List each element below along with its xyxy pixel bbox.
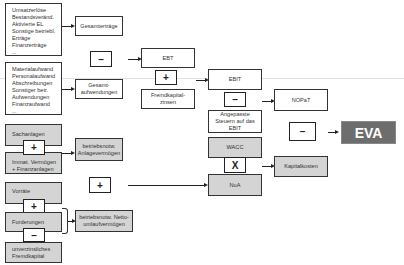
minus-symbol: – <box>300 126 306 137</box>
immat-vermoegen-label: Immat. Vermögen + Finanzanlagen <box>12 159 56 173</box>
unverzinsliches-fk-box: unverzinsliches Fremdkapital <box>5 242 62 263</box>
nopat-box: NOPaT <box>274 89 328 111</box>
arrow-icon <box>335 130 339 134</box>
times-operator: X <box>224 157 246 173</box>
immat-vermoegen-box: Immat. Vermögen + Finanzanlagen <box>5 152 62 174</box>
expense-items-box: Materialaufwand Personalaufwand Abschrei… <box>5 62 62 115</box>
nopat-label: NOPaT <box>292 97 311 104</box>
forderungen-label: Forderungen <box>12 219 44 226</box>
wacc-label: WACC <box>227 144 244 151</box>
plus-operator: + <box>155 70 177 85</box>
arrow-icon <box>204 183 208 187</box>
sachanlagen-label: Sachanlagen <box>12 131 45 138</box>
plus-operator-umlauf: + <box>23 199 45 213</box>
vorraete-label: Vorräte <box>12 188 30 195</box>
angepasste-steuern-label: Angepasste Steuern auf das EBIT <box>215 111 255 132</box>
gesamtaufwendungen-box: Gesamt- aufwendungen <box>75 79 123 99</box>
expense-items-text: Materialaufwand Personalaufwand Abschrei… <box>12 66 55 115</box>
connector <box>128 185 204 186</box>
minus-symbol: – <box>98 54 104 65</box>
nua-label: NuA <box>230 182 241 189</box>
minus-symbol: – <box>31 230 37 241</box>
fremdkapitalzinsen-label: Fremdkapital- zinsen <box>151 92 185 106</box>
eva-label: EVA <box>355 125 383 141</box>
ebt-box: EBT <box>141 48 195 68</box>
plus-operator-anlage: + <box>23 140 45 155</box>
gesamtaufwendungen-label: Gesamt- aufwendungen <box>81 82 118 96</box>
minus-operator: – <box>90 51 112 67</box>
minus-operator-eva: – <box>289 122 316 141</box>
kapitalkosten-box: Kapitalkosten <box>274 156 328 177</box>
plus-operator-nua: + <box>89 177 111 193</box>
unverzinsliches-fk-label: unverzinsliches Fremdkapital <box>12 246 50 260</box>
revenue-items-box: Umsatzerlöse Bestandsveränd. Aktivierte … <box>5 3 62 56</box>
gesamtertraege-label: Gesamterträge <box>80 23 117 30</box>
minus-operator-umlauf: – <box>23 228 45 242</box>
plus-symbol: + <box>31 201 37 212</box>
betriebsnotw-netto-umlauf-box: betriebsnotw. Netto- umlaufvermögen <box>75 210 133 232</box>
plus-symbol: + <box>31 142 37 153</box>
minus-operator-ebit: – <box>224 92 246 107</box>
times-symbol: X <box>232 160 239 171</box>
betriebsnotw-netto-umlauf-label: betriebsnotw. Netto- umlaufvermögen <box>79 214 129 228</box>
revenue-items-text: Umsatzerlöse Bestandsveränd. Aktivierte … <box>12 7 55 56</box>
plus-symbol: + <box>163 72 169 83</box>
betriebsnotw-anlagevermoegen-box: betriebsnotw. Anlagevermögen <box>75 138 123 161</box>
plus-symbol: + <box>97 180 103 191</box>
betriebsnotw-anlagevermoegen-label: betriebsnotw. Anlagevermögen <box>78 143 120 157</box>
ebit-label: EBIT <box>229 76 241 83</box>
gesamtertraege-box: Gesamterträge <box>75 16 123 36</box>
ebt-label: EBT <box>163 55 174 62</box>
nua-box: NuA <box>208 174 262 196</box>
minus-symbol: – <box>232 94 238 105</box>
eva-box: EVA <box>341 121 396 144</box>
ebit-box: EBIT <box>208 69 262 90</box>
kapitalkosten-label: Kapitalkosten <box>284 163 318 170</box>
fremdkapitalzinsen-box: Fremdkapital- zinsen <box>141 89 195 109</box>
angepasste-steuern-box: Angepasste Steuern auf das EBIT <box>208 110 262 133</box>
wacc-box: WACC <box>208 137 262 158</box>
